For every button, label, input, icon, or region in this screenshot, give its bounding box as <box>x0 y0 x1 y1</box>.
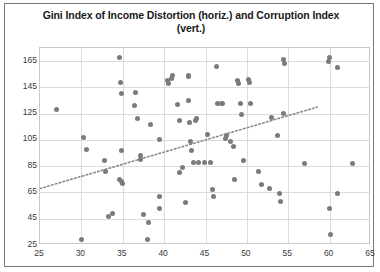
y-tick-label: 25 <box>7 240 37 249</box>
data-point <box>118 80 123 85</box>
data-point <box>81 135 86 140</box>
data-point <box>220 101 225 106</box>
chart-title: Gini Index of Income Distortion (horiz.)… <box>31 9 351 34</box>
y-tick-label: 85 <box>7 161 37 170</box>
x-tick-label: 40 <box>148 249 178 258</box>
data-point <box>175 102 180 107</box>
data-point <box>148 122 153 127</box>
data-point <box>191 160 196 165</box>
y-tick-label: 45 <box>7 213 37 222</box>
x-tick-label: 25 <box>24 249 54 258</box>
x-tick-label: 45 <box>190 249 220 258</box>
data-point <box>247 80 252 85</box>
x-tick-label: 60 <box>314 249 344 258</box>
data-point <box>248 101 253 106</box>
y-tick-label: 145 <box>7 82 37 91</box>
data-point <box>335 65 340 70</box>
data-point <box>281 111 286 116</box>
data-point <box>193 118 198 123</box>
data-point <box>282 61 287 66</box>
data-point <box>208 160 213 165</box>
data-point <box>202 160 207 165</box>
data-point <box>84 147 89 152</box>
x-tick-label: 30 <box>65 249 95 258</box>
data-point <box>170 73 175 78</box>
data-point <box>267 186 272 191</box>
trendline <box>40 48 370 244</box>
data-point <box>103 169 108 174</box>
data-point <box>238 101 243 106</box>
x-tick-label: 35 <box>107 249 137 258</box>
data-point <box>327 206 332 211</box>
y-tick-label: 125 <box>7 108 37 117</box>
data-point <box>232 177 237 182</box>
data-point <box>117 55 122 60</box>
data-point <box>177 118 182 123</box>
data-point <box>256 169 261 174</box>
data-point <box>166 81 171 86</box>
x-tick-label: 50 <box>231 249 261 258</box>
data-point <box>328 232 333 237</box>
data-point <box>210 187 215 192</box>
data-point <box>327 55 332 60</box>
y-tick-label: 105 <box>7 134 37 143</box>
data-point <box>157 194 162 199</box>
data-point <box>180 165 185 170</box>
chart-container: Gini Index of Income Distortion (horiz.)… <box>4 3 374 267</box>
data-point <box>189 148 194 153</box>
data-point <box>133 90 138 95</box>
data-point <box>228 139 233 144</box>
plot-area <box>39 47 370 244</box>
data-point <box>188 139 193 144</box>
data-point <box>214 64 219 69</box>
x-tick-label: 55 <box>272 249 302 258</box>
y-tick-label: 65 <box>7 187 37 196</box>
x-tick-label: 65 <box>355 249 380 258</box>
data-point <box>205 132 210 137</box>
y-tick-label: 165 <box>7 56 37 65</box>
